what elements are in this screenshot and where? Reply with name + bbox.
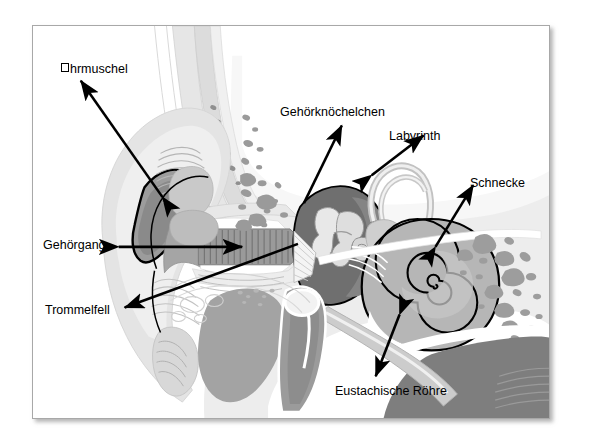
- label-eustachische-roehre: Eustachische Röhre: [335, 385, 447, 399]
- figure-page: hrmuschel Gehörknöchelchen Labyrinth Sch…: [0, 0, 591, 447]
- label-schnecke: Schnecke: [470, 177, 525, 191]
- label-labyrinth: Labyrinth: [389, 130, 440, 144]
- missing-glyph-box: [61, 63, 69, 72]
- figure-frame: hrmuschel Gehörknöchelchen Labyrinth Sch…: [32, 25, 550, 419]
- label-gehoergang: Gehörgang: [43, 239, 106, 253]
- mandible-socket: [285, 290, 319, 316]
- label-ohrmuschel: hrmuschel: [61, 63, 128, 77]
- ear-anatomy-illustration: [33, 26, 549, 418]
- label-trommelfell: Trommelfell: [45, 304, 110, 318]
- bone-island-2: [170, 210, 219, 246]
- label-ohrmuschel-text: hrmuschel: [70, 62, 128, 76]
- label-gehoerknoechelchen: Gehörknöchelchen: [280, 106, 385, 120]
